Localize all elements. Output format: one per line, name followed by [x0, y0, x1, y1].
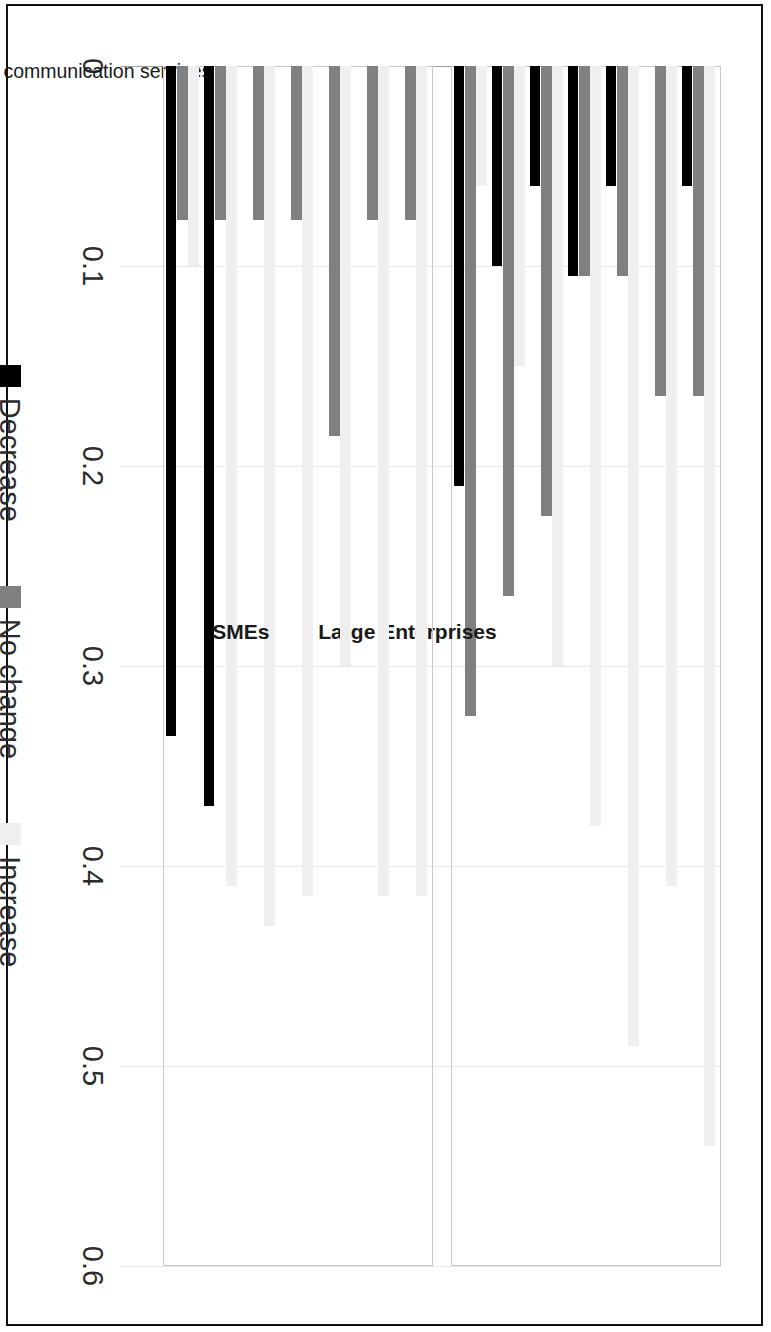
bar-increase: [379, 66, 390, 896]
bar-group: Connectivity in terms of transport and c…: [681, 66, 719, 1266]
bar-increase: [227, 66, 238, 886]
legend-swatch-increase-icon: [0, 823, 21, 845]
value-tick-label: 0.6: [76, 1246, 109, 1286]
bar-decrease: [204, 66, 215, 806]
bar-group: Import Tariffs/Duties: [165, 66, 203, 1266]
bar-increase: [265, 66, 276, 926]
bar-group: Standard Regulation: [567, 66, 605, 1266]
rotated-chart-stage: 00.10.20.30.40.50.6 Connectivity in term…: [8, 6, 765, 1328]
bar-increase: [667, 66, 678, 886]
bar-no-change: [253, 66, 264, 220]
bar-increase: [705, 66, 716, 1146]
bar-no-change: [367, 66, 378, 220]
bar-increase: [341, 66, 352, 666]
bar-no-change: [215, 66, 226, 220]
bar-increase: [629, 66, 640, 1046]
value-tick-label: 0.5: [76, 1046, 109, 1086]
bar-increase: [515, 66, 526, 366]
legend-swatch-no-change-icon: [0, 586, 21, 608]
bar-decrease: [682, 66, 693, 186]
bar-decrease: [530, 66, 541, 186]
bar-group: Customs Procedure: [529, 66, 567, 1266]
figure-border: 00.10.20.30.40.50.6 Connectivity in term…: [6, 4, 763, 1326]
legend-label-increase: Increase: [0, 856, 27, 967]
bar-increase: [189, 66, 200, 266]
value-tick-label: 0.1: [76, 246, 109, 286]
figure-page: 00.10.20.30.40.50.6 Connectivity in term…: [0, 0, 771, 1332]
bar-decrease: [492, 66, 503, 266]
value-tick-label: 0.3: [76, 646, 109, 686]
bar-no-change: [541, 66, 552, 516]
legend-label-no-change: No change: [0, 619, 27, 759]
bar-group: Export Tariffs/Duties: [491, 66, 529, 1266]
bar-no-change: [617, 66, 628, 276]
bar-increase: [417, 66, 428, 896]
bar-group: Import Tariffs/Duties: [453, 66, 491, 1266]
bar-group: Customs Procedure: [241, 66, 279, 1266]
legend-label-decrease: Decrease: [0, 398, 27, 522]
value-tick-label: 0.4: [76, 846, 109, 886]
bar-no-change: [693, 66, 704, 396]
bar-no-change: [503, 66, 514, 596]
legend-item-no-change: No change: [0, 586, 27, 759]
plot-area: 00.10.20.30.40.50.6 Connectivity in term…: [121, 66, 721, 1266]
bar-decrease: [454, 66, 465, 486]
bar-group: Investment Process in ASEAN Countries: [355, 66, 393, 1266]
bar-decrease: [606, 66, 617, 186]
bar-no-change: [329, 66, 340, 436]
group-label-smes: SMEs: [212, 620, 269, 644]
bar-increase: [553, 66, 564, 666]
bar-group: Connectivity in terms of transport and c…: [393, 66, 431, 1266]
legend-swatch-decrease-icon: [0, 365, 21, 387]
bar-no-change: [579, 66, 590, 276]
bar-increase: [591, 66, 602, 826]
bar-group: Export Tariffs/Duties: [203, 66, 241, 1266]
bar-no-change: [177, 66, 188, 220]
bar-decrease: [166, 66, 177, 736]
bar-increase: [477, 66, 488, 186]
gridline-0-6: [121, 1266, 721, 1267]
bar-group: Investment Process in ASEAN Countries: [643, 66, 681, 1266]
bar-no-change: [655, 66, 666, 396]
bar-group: Recognition of Professional Qualificatio…: [317, 66, 355, 1266]
bar-increase: [303, 66, 314, 896]
bar-no-change: [465, 66, 476, 716]
legend-item-increase: Increase: [0, 823, 27, 967]
bar-decrease: [568, 66, 579, 276]
legend-item-decrease: Decrease: [0, 365, 27, 522]
bar-no-change: [405, 66, 416, 220]
bar-no-change: [291, 66, 302, 220]
value-tick-label: 0.2: [76, 446, 109, 486]
bar-group: Standard Regulation: [279, 66, 317, 1266]
bar-group: Recognition of Professional Qualificatio…: [605, 66, 643, 1266]
chart-legend: Decrease No change Increase: [0, 66, 35, 1266]
